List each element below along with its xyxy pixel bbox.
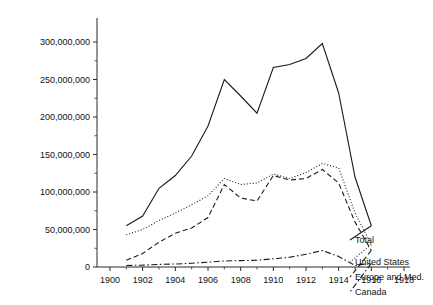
y-axis-tick-label: 0 [85,262,90,272]
series-line-europe-and-med [126,170,371,261]
x-axis-tick-label: 1902 [133,275,153,285]
y-axis-tick-label: 50,000,000 [45,225,90,235]
series-line-canada [126,251,371,266]
series-line-united-states [126,164,371,245]
series-labels: TotalUnited StatesEurope and Med.Canada [350,226,424,297]
chart-canvas: 050,000,000100,000,000150,000,000200,000… [0,0,433,305]
y-axis-tick-label: 300,000,000 [40,37,90,47]
series-label-europe-and-med: Europe and Med. [355,272,424,282]
y-axis-tick-label: 150,000,000 [40,150,90,160]
series-label-united-states: United States [355,257,410,267]
series-line-total [126,44,371,226]
x-axis-tick-label: 1914 [329,275,349,285]
series-label-canada: Canada [355,287,387,297]
line-chart: 050,000,000100,000,000150,000,000200,000… [0,0,433,305]
x-axis-tick-label: 1910 [263,275,283,285]
x-axis-tick-label: 1912 [296,275,316,285]
series-label-total: Total [355,235,374,245]
x-axis-tick-label: 1904 [165,275,185,285]
series-lines [126,44,371,266]
x-axis-tick-label: 1900 [100,275,120,285]
y-axis-tick-label: 100,000,000 [40,187,90,197]
y-axis-tick-label: 250,000,000 [40,75,90,85]
x-axis-tick-label: 1906 [198,275,218,285]
y-axis: 050,000,000100,000,000150,000,000200,000… [40,18,97,272]
y-axis-tick-label: 200,000,000 [40,112,90,122]
x-axis-tick-label: 1908 [231,275,251,285]
